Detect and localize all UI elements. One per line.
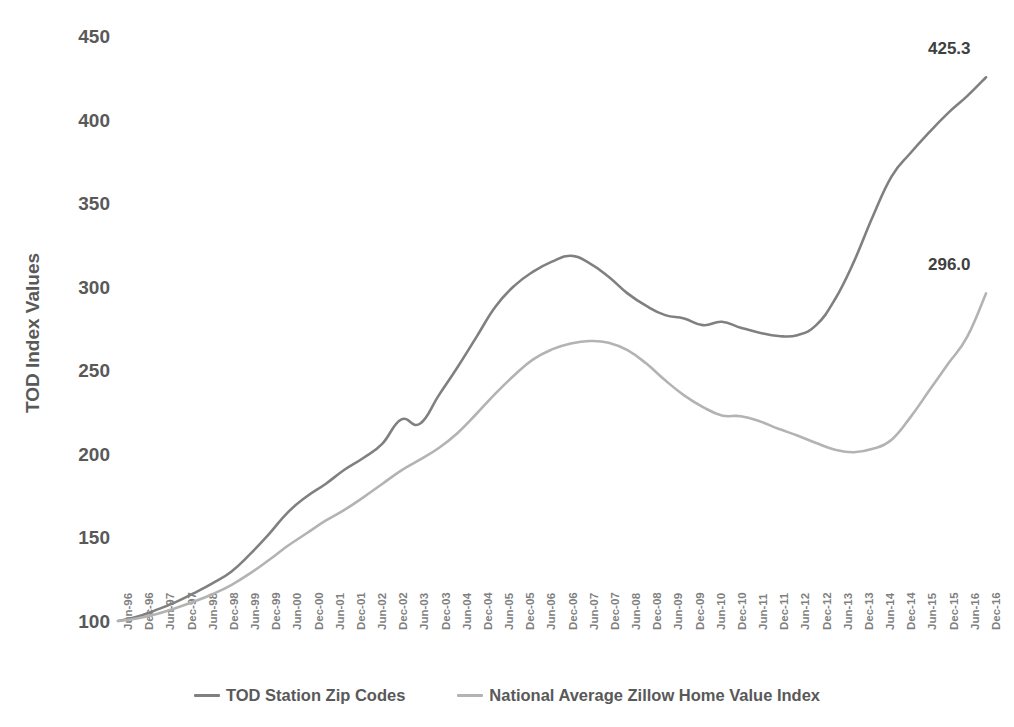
legend-item[interactable]: TOD Station Zip Codes (194, 686, 405, 705)
legend-line-swatch-icon (457, 694, 483, 697)
chart-legend: TOD Station Zip CodesNational Average Zi… (0, 686, 1014, 705)
legend-item[interactable]: National Average Zillow Home Value Index (457, 686, 820, 705)
legend-label: TOD Station Zip Codes (226, 686, 405, 705)
series-end-value-label: 425.3 (928, 39, 971, 59)
legend-line-swatch-icon (194, 694, 220, 697)
series-end-value-label: 296.0 (928, 255, 971, 275)
plot-area (0, 0, 1014, 727)
series-line (118, 293, 986, 621)
legend-label: National Average Zillow Home Value Index (489, 686, 820, 705)
chart-container: TOD Index Values 10015020025030035040045… (0, 0, 1014, 727)
